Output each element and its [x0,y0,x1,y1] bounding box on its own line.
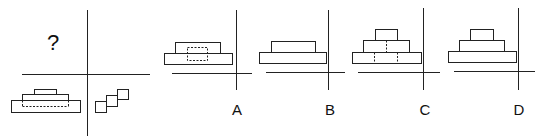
option-b-label[interactable]: B [325,102,335,117]
option-d-label[interactable]: D [514,102,525,117]
front-view-figure [12,90,81,113]
option-c-label[interactable]: C [420,102,431,117]
option-c-figure[interactable] [353,8,441,90]
option-a-label[interactable]: A [232,102,242,117]
option-d-figure[interactable] [449,8,536,90]
side-view-squares [96,90,129,113]
option-a-figure[interactable] [165,10,253,90]
puzzle-canvas [0,0,541,136]
option-b-figure[interactable] [260,10,346,90]
unknown-view-question-mark: ? [47,32,59,54]
